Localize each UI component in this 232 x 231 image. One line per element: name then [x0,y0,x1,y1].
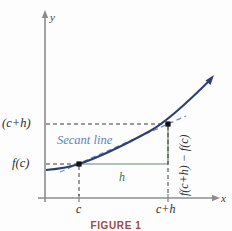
figure-container: y x (c+h) f(c) c c+h Secant line h f(c+h… [0,0,232,231]
run-h-label: h [119,171,125,183]
secant-line-label: Secant line [57,134,112,147]
rise-difference-label: f(c+h) − f(c) [178,135,190,197]
x-axis [38,195,220,201]
y-upper-value-label: (c+h) [2,117,31,130]
figure-caption: FIGURE 1 [0,220,232,231]
x-axis-label: x [221,193,226,204]
y-axis [42,10,48,202]
figure-graphic [0,0,232,231]
x-tick-label-c-plus-h: c+h [156,203,175,215]
y-axis-label: y [50,12,55,23]
y-lower-value-label: f(c) [12,157,29,170]
x-tick-label-c: c [76,203,81,215]
